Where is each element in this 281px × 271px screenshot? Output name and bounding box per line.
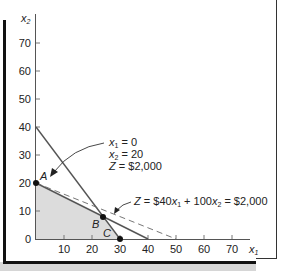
bottom-border (3, 261, 256, 264)
x-tick-labels: 10 20 30 40 50 60 70 (58, 243, 238, 255)
point-c-marker (117, 236, 123, 242)
objective-annotation: Z = $40x1 + 100x2 = $2,000 (133, 195, 268, 208)
x-axis-title: x1 (248, 243, 259, 256)
x-tick-40: 40 (142, 243, 154, 255)
y-tick-50: 50 (19, 93, 31, 105)
x-tick-50: 50 (170, 243, 182, 255)
y-tick-30: 30 (19, 149, 31, 161)
y-tick-0: 0 (25, 233, 31, 245)
point-a-label: A (39, 170, 47, 182)
svg-text:Z = $2,000: Z = $2,000 (108, 160, 162, 172)
arrow-head-a-icon (50, 168, 58, 177)
y-tick-60: 60 (19, 65, 31, 77)
left-border (3, 20, 6, 264)
y-axis-title: x2 (20, 12, 31, 25)
x-tick-60: 60 (198, 243, 210, 255)
point-b-marker (100, 214, 106, 220)
arrow-to-objective (117, 202, 131, 210)
y-tick-20: 20 (19, 177, 31, 189)
lp-graph: 0 10 20 30 40 50 60 70 10 20 30 40 50 60… (0, 0, 281, 271)
x-tick-20: 20 (86, 243, 98, 255)
y-tick-70: 70 (19, 37, 31, 49)
x-tick-30: 30 (114, 243, 126, 255)
point-c-label: C (103, 227, 111, 239)
x-tick-70: 70 (226, 243, 238, 255)
point-b-label: B (92, 218, 99, 230)
y-tick-40: 40 (19, 121, 31, 133)
y-tick-labels: 0 10 20 30 40 50 60 70 (19, 37, 31, 245)
x-tick-10: 10 (58, 243, 70, 255)
annotation-point-a: x1 = 0 x2 = 20 Z = $2,000 (108, 136, 162, 172)
point-a-marker (33, 180, 39, 186)
arrow-to-a (54, 143, 104, 172)
chart-frame: 0 10 20 30 40 50 60 70 10 20 30 40 50 60… (0, 0, 281, 271)
y-tick-10: 10 (19, 205, 31, 217)
